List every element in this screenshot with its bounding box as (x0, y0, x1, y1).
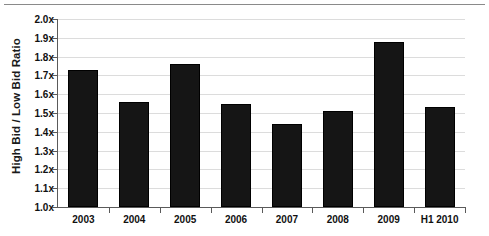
bar (68, 70, 98, 207)
x-axis-tick-mark (160, 208, 161, 213)
top-divider-rule (4, 4, 485, 5)
y-axis-tick-label-group: 1.0x1.1x1.2x1.3x1.4x1.5x1.6x1.7x1.8x1.9x… (22, 13, 54, 209)
x-axis-tick-label: 2006 (211, 214, 262, 225)
y-axis-tick-label: 1.5x (22, 108, 54, 119)
bar-chart-figure: High Bid / Low Bid Ratio 1.0x1.1x1.2x1.3… (0, 0, 489, 236)
y-axis-title: High Bid / Low Bid Ratio (10, 6, 22, 206)
y-axis-tick-label: 1.3x (22, 145, 54, 156)
y-axis-tick-mark (52, 94, 57, 95)
bar (170, 64, 200, 207)
y-axis-tick-mark (52, 57, 57, 58)
gridline (58, 38, 465, 39)
y-axis-tick-mark (52, 132, 57, 133)
gridline (58, 94, 465, 95)
x-axis-tick-mark (262, 208, 263, 213)
y-axis-tick-label: 2.0x (22, 14, 54, 25)
gridline (58, 19, 465, 20)
y-axis-tick-mark (52, 75, 57, 76)
y-axis-tick-label: 1.0x (22, 202, 54, 213)
x-axis-tick-mark (414, 208, 415, 213)
gridline (58, 75, 465, 76)
y-axis-tick-mark (52, 207, 57, 208)
y-axis-tick-label: 1.4x (22, 126, 54, 137)
y-axis-tick-mark (52, 113, 57, 114)
x-axis-tick-mark (109, 208, 110, 213)
x-axis-tick-label: 2003 (58, 214, 109, 225)
y-axis-tick-mark (52, 38, 57, 39)
bar (272, 124, 302, 207)
y-axis-tick-label: 1.8x (22, 51, 54, 62)
x-axis-tick-label: 2005 (160, 214, 211, 225)
y-axis-tick-label: 1.1x (22, 183, 54, 194)
y-axis-tick-mark (52, 169, 57, 170)
y-axis-tick-label: 1.9x (22, 32, 54, 43)
gridline (58, 57, 465, 58)
y-axis-tick-label: 1.6x (22, 89, 54, 100)
bar (374, 42, 404, 207)
x-axis-tick-label: 2007 (262, 214, 313, 225)
x-axis-tick-mark (211, 208, 212, 213)
bar (425, 107, 455, 207)
x-axis-tick-label: 2009 (363, 214, 414, 225)
x-axis-tick-mark (363, 208, 364, 213)
y-axis-tick-label: 1.2x (22, 164, 54, 175)
plot-area (58, 19, 465, 207)
bar (323, 111, 353, 207)
y-axis-tick-mark (52, 151, 57, 152)
bar (119, 102, 149, 207)
x-axis-tick-mark (465, 208, 466, 213)
y-axis-tick-label: 1.7x (22, 70, 54, 81)
y-axis-tick-mark (52, 188, 57, 189)
y-axis-tick-mark (52, 19, 57, 20)
x-axis-tick-label: 2008 (312, 214, 363, 225)
x-axis-tick-label: 2004 (109, 214, 160, 225)
x-axis-tick-mark (312, 208, 313, 213)
bar (221, 104, 251, 207)
x-axis-tick-label-group: 2003200420052006200720082009H1 2010 (58, 214, 465, 232)
x-axis-tick-label: H1 2010 (414, 214, 465, 225)
